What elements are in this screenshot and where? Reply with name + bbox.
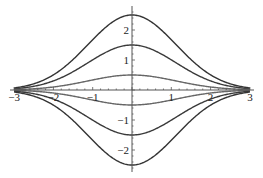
x-tick-label: −3 xyxy=(8,91,20,103)
y-tick-label: 2 xyxy=(124,24,130,36)
x-tick-label: 1 xyxy=(169,91,175,103)
y-tick-label: −2 xyxy=(117,144,129,156)
y-tick-label: 1 xyxy=(124,54,130,66)
x-tick-label: −2 xyxy=(48,91,60,103)
y-tick-label: −1 xyxy=(117,114,129,126)
x-tick-label: −1 xyxy=(87,91,99,103)
x-tick-label: 3 xyxy=(247,91,253,103)
x-tick-label: 2 xyxy=(208,91,214,103)
gaussian-curves-plot: −3−2−1123−2−112 xyxy=(0,0,263,178)
